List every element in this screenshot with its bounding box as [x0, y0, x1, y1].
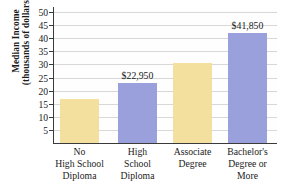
y-tick-label: 45: [38, 20, 48, 31]
bar-value-label: $22,950: [122, 70, 154, 81]
y-tick-label: 40: [38, 33, 48, 44]
x-axis-category-label: Bachelor'sDegree orMore: [208, 146, 286, 181]
x-axis-category-labels: NoHigh SchoolDiplomaHighSchoolDiplomaAss…: [53, 146, 277, 187]
y-tick-label: 35: [38, 46, 48, 57]
x-axis-category-label-line: Diploma: [98, 170, 178, 182]
bar-chart: Median Income (thousands of dollars) 510…: [0, 0, 285, 187]
y-tick-label: 5: [43, 124, 48, 135]
bar: [60, 99, 99, 143]
y-tick-label: 10: [38, 111, 48, 122]
y-tick-label: 15: [38, 98, 48, 109]
bar: [228, 33, 267, 143]
bar: [118, 83, 157, 143]
y-axis-title-line-1: Median Income: [11, 9, 21, 73]
bar: [173, 63, 212, 143]
y-axis-line: [53, 7, 54, 144]
x-axis-category-label-line: Degree or: [208, 158, 286, 170]
plot-area: 5101520253035404550 $22,950$41,850: [53, 7, 277, 144]
y-axis-title-line-2: (thousands of dollars): [21, 0, 31, 85]
y-tick-label: 20: [38, 85, 48, 96]
y-tick-label: 50: [38, 7, 48, 18]
x-axis-line: [53, 143, 277, 144]
y-axis-title: Median Income (thousands of dollars): [0, 0, 42, 111]
x-axis-category-label-line: Bachelor's: [208, 146, 286, 158]
gridline: [53, 12, 277, 13]
x-axis-category-label-line: More: [208, 170, 286, 182]
bar-value-label: $41,850: [232, 20, 264, 31]
y-tick-label: 25: [38, 72, 48, 83]
y-tick-label: 30: [38, 59, 48, 70]
